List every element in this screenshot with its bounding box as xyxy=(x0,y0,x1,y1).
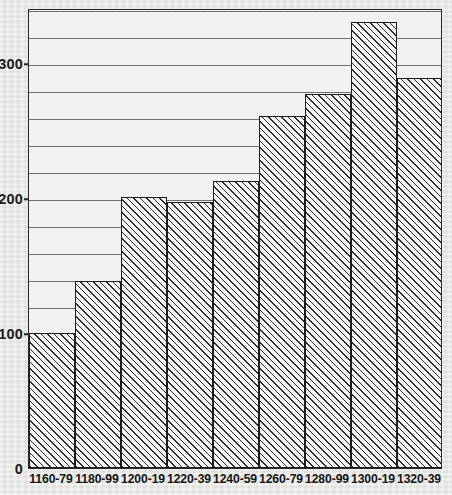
x-tick-label-1160-79: 1160-79 xyxy=(28,472,74,486)
x-tick-label-1240-59: 1240-59 xyxy=(212,472,258,486)
x-tick-label-1180-99: 1180-99 xyxy=(74,472,120,486)
y-tick-mark xyxy=(24,64,28,66)
x-tick-label-1220-39: 1220-39 xyxy=(166,472,212,486)
x-tick-label-1300-19: 1300-19 xyxy=(350,472,396,486)
bar-1180-99 xyxy=(75,281,121,469)
x-tick-label-1320-39: 1320-39 xyxy=(396,472,442,486)
bar-1320-39 xyxy=(397,78,442,468)
y-tick-label-200: 200 xyxy=(0,191,23,207)
y-axis: 0100200300 xyxy=(0,0,28,495)
bar-1200-19 xyxy=(121,197,167,468)
bar-1220-39 xyxy=(167,202,213,468)
x-axis: 1160-791180-991200-191220-391240-591260-… xyxy=(28,471,442,495)
histogram-chart: 0100200300 1160-791180-991200-191220-391… xyxy=(0,0,452,495)
y-tick-label-300: 300 xyxy=(0,56,23,72)
x-tick-label-1280-99: 1280-99 xyxy=(304,472,350,486)
x-tick-label-1260-79: 1260-79 xyxy=(258,472,304,486)
bar-series xyxy=(29,10,441,468)
y-tick-mark xyxy=(24,333,28,335)
bar-1280-99 xyxy=(305,94,351,468)
bar-1240-59 xyxy=(213,181,259,468)
bar-1160-79 xyxy=(29,333,75,468)
bar-1260-79 xyxy=(259,116,305,468)
y-tick-mark xyxy=(24,198,28,200)
x-tick-label-1200-19: 1200-19 xyxy=(120,472,166,486)
bar-1300-19 xyxy=(351,22,397,469)
y-tick-label-0: 0 xyxy=(15,461,23,477)
plot-area xyxy=(28,9,442,469)
y-tick-label-100: 100 xyxy=(0,326,23,342)
